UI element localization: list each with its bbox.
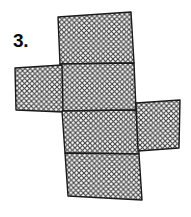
face-bottom <box>65 153 142 200</box>
cube-net-figure <box>0 0 191 217</box>
problem-number-label: 3. <box>13 31 28 50</box>
face-top <box>58 12 134 64</box>
face-left <box>15 65 63 112</box>
face-upper-middle <box>60 63 136 111</box>
face-right <box>136 100 180 151</box>
figure-page: 3. <box>0 0 191 217</box>
face-lower-middle <box>62 110 139 154</box>
net-faces <box>15 12 180 200</box>
